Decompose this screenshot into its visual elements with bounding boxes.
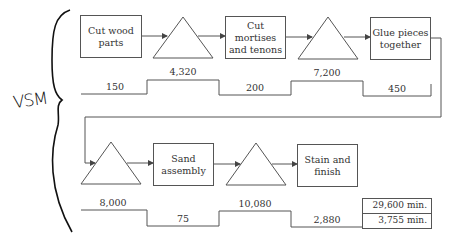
process-label: parts: [99, 37, 124, 48]
process-glue-pieces: Glue piecestogether: [370, 17, 431, 60]
process-time-3: 450: [372, 83, 422, 94]
process-label: mortises: [235, 32, 277, 43]
process-label: Cut: [247, 20, 264, 31]
inventory-triangle-1: [153, 17, 213, 58]
brace-icon: [52, 10, 72, 232]
process-sand-assembly: Sandassembly: [153, 143, 214, 186]
process-stain-finish: Stain andfinish: [297, 144, 358, 187]
process-cut-wood-parts: Cut woodparts: [80, 15, 142, 58]
process-label: Sand: [171, 153, 195, 164]
inventory-triangle-2: [298, 17, 358, 59]
process-label: Stain and: [304, 154, 350, 165]
process-time-4: 75: [158, 213, 208, 224]
wait-time-2: 7,200: [302, 67, 352, 78]
total-process-time: 3,755 min.: [362, 213, 432, 229]
process-label: together: [380, 39, 421, 50]
process-label: Glue pieces: [373, 27, 429, 38]
process-label: finish: [314, 166, 341, 177]
process-label: and tenons: [229, 44, 282, 55]
process-label: Cut wood: [88, 25, 134, 36]
process-time-5: 2,880: [302, 214, 352, 225]
wait-time-4: 10,080: [230, 198, 280, 209]
process-time-1: 150: [90, 81, 140, 92]
process-label: assembly: [161, 165, 206, 176]
wait-time-1: 4,320: [158, 66, 208, 77]
process-cut-mortises: Cutmortisesand tenons: [225, 16, 286, 59]
wait-time-3: 8,000: [88, 197, 138, 208]
process-time-2: 200: [230, 82, 280, 93]
total-lead-time: 29,600 min.: [362, 198, 432, 214]
